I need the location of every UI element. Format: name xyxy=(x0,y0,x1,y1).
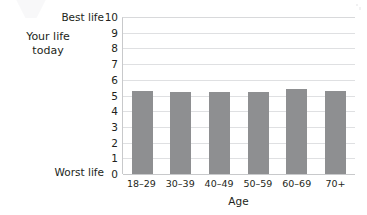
watermark-dot-artifact-icon xyxy=(356,4,361,10)
y-axis-tick: 7 xyxy=(96,59,118,69)
x-axis-tick: 60–69 xyxy=(278,178,316,189)
bar xyxy=(248,92,269,174)
y-axis-tick: 1 xyxy=(96,153,118,163)
y-axis-tick: 5 xyxy=(96,91,118,101)
plot-area xyxy=(122,17,355,174)
y-axis-tick: 2 xyxy=(96,138,118,148)
side-label-line-1: Your life xyxy=(0,30,96,44)
y-axis-tick-labels: 109876543210 xyxy=(96,0,118,215)
bar-chart-figure: Your life today Best life Worst life 109… xyxy=(0,0,367,215)
bar xyxy=(209,92,230,174)
y-axis-tick: 6 xyxy=(96,75,118,85)
worst-life-label: Worst life xyxy=(20,166,104,178)
y-axis-tick: 8 xyxy=(96,43,118,53)
y-axis-tick: 0 xyxy=(96,169,118,179)
x-axis-tick: 30–39 xyxy=(161,178,199,189)
x-axis-tick: 70+ xyxy=(317,178,355,189)
y-axis-tick: 10 xyxy=(96,12,118,22)
y-axis-tick: 3 xyxy=(96,122,118,132)
best-life-label: Best life xyxy=(20,11,104,23)
your-life-today-label: Your life today xyxy=(0,30,96,57)
gridline xyxy=(123,174,355,175)
x-axis-tick: 50–59 xyxy=(239,178,277,189)
x-axis-tick: 18–29 xyxy=(122,178,160,189)
x-axis-tick-labels: 18–2930–3940–4950–5960–6970+ xyxy=(122,178,355,189)
bar xyxy=(286,89,307,174)
bar-series xyxy=(123,18,355,174)
y-axis-tick: 9 xyxy=(96,28,118,38)
bar xyxy=(170,92,191,174)
bar xyxy=(325,91,346,174)
y-axis-tick: 4 xyxy=(96,106,118,116)
bar xyxy=(132,91,153,174)
x-axis-title: Age xyxy=(122,195,355,207)
side-label-line-2: today xyxy=(0,44,96,58)
x-axis-tick: 40–49 xyxy=(200,178,238,189)
